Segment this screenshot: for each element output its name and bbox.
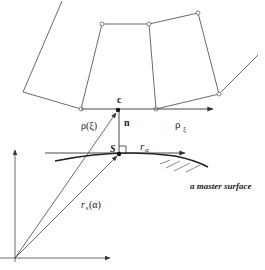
label-n: n [124, 117, 130, 128]
slave-mesh [23, 1, 258, 109]
node [147, 22, 151, 26]
node [196, 11, 200, 15]
label-s: S [110, 143, 116, 154]
contact-diagram: c n ρ(ξ) ρ ξ S r α r s (α) a master surf… [0, 0, 265, 270]
label-rs-arg: (α) [89, 199, 101, 211]
label-rho-xi: ρ(ξ) [81, 120, 97, 132]
left-element-edge [23, 1, 81, 109]
label-rho-subscript-sub: ξ [183, 125, 186, 133]
point-c [116, 108, 120, 112]
rs-position-vector [15, 156, 117, 258]
slave-element-2 [149, 13, 219, 109]
right-element-edge [219, 55, 258, 94]
point-s [117, 152, 121, 156]
label-rho-subscript-main: ρ [175, 118, 181, 130]
label-c: c [117, 94, 122, 105]
label-rs-main: r [81, 199, 85, 210]
node [217, 92, 221, 96]
rho-position-vector [15, 113, 116, 258]
master-surface-curve [55, 153, 208, 167]
label-master-surface: a master surface [190, 181, 252, 191]
right-angle-marker [119, 146, 126, 153]
node [100, 22, 104, 26]
label-r-alpha-sub: α [145, 146, 149, 154]
slave-nodes [79, 11, 221, 111]
